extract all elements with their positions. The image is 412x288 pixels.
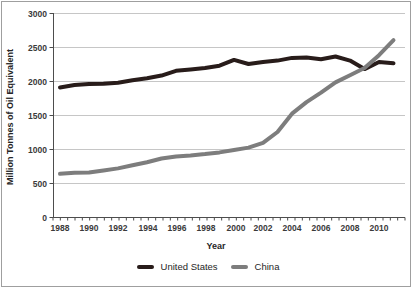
x-tick-label: 2002 (248, 223, 278, 233)
legend-marker-united-states (137, 265, 154, 269)
legend: United States China (54, 259, 362, 275)
x-tick-label: 2006 (306, 223, 336, 233)
x-tick-label: 2010 (364, 223, 394, 233)
legend-marker-china (231, 265, 248, 269)
x-tick-label: 2008 (335, 223, 365, 233)
x-tick-label: 2004 (277, 223, 307, 233)
x-tick-label: 2000 (221, 223, 251, 233)
legend-label-china: China (255, 261, 280, 273)
x-tick-label: 1990 (74, 223, 104, 233)
chart-frame: 3000 2500 2000 1500 1000 500 0 1988 1990… (1, 1, 411, 287)
series-line-united-states (60, 57, 394, 88)
x-tick-label: 1998 (191, 223, 221, 233)
legend-label-united-states: United States (161, 261, 218, 273)
x-tick-label: 1988 (45, 223, 75, 233)
x-axis-title: Year (186, 241, 246, 251)
x-tick-label: 1996 (162, 223, 192, 233)
x-tick-label: 1992 (103, 223, 133, 233)
x-tick-label: 1994 (133, 223, 163, 233)
y-axis-title: Million Tonnes of Oil Equivalent (5, 15, 15, 219)
